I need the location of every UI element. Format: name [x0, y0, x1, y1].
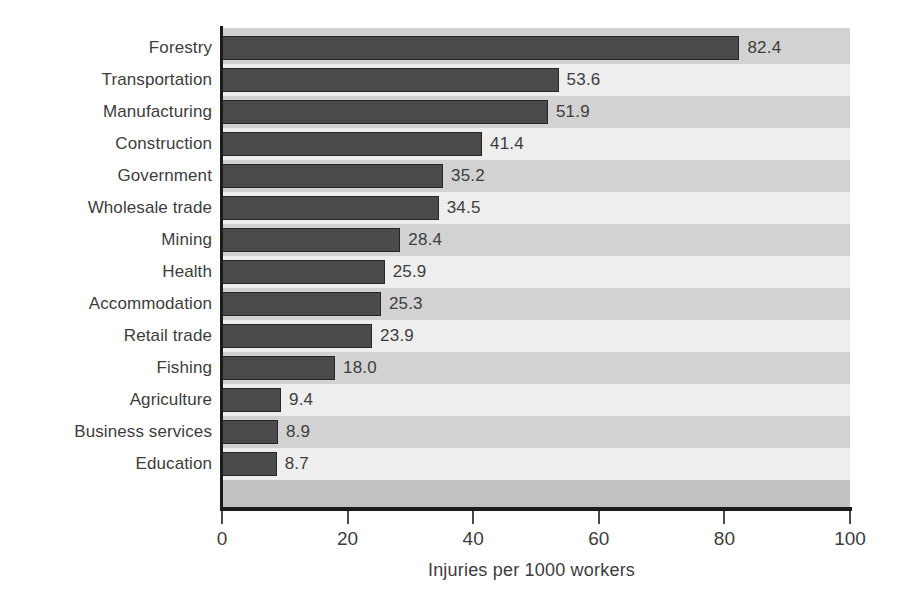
category-axis-labels: ForestryTransportationManufacturingConst… — [0, 28, 212, 508]
x-axis-line — [220, 507, 852, 511]
category-label: Wholesale trade — [2, 198, 212, 218]
x-axis-tick-label: 100 — [834, 528, 866, 550]
bar — [222, 420, 278, 444]
x-axis-tick-label: 0 — [217, 528, 228, 550]
bar — [222, 356, 335, 380]
bar — [222, 36, 739, 60]
category-label: Accommodation — [2, 294, 212, 314]
chart-background-band — [222, 480, 850, 508]
bar-value-label: 25.9 — [393, 262, 427, 282]
x-axis-tick-label: 60 — [588, 528, 609, 550]
bar — [222, 228, 400, 252]
category-label: Health — [2, 262, 212, 282]
bar-value-label: 41.4 — [490, 134, 524, 154]
bar-row: 18.0 — [222, 356, 850, 380]
bar — [222, 260, 385, 284]
category-label: Construction — [2, 134, 212, 154]
bar-value-label: 9.4 — [289, 390, 313, 410]
x-axis-tick — [723, 511, 725, 524]
category-label: Manufacturing — [2, 102, 212, 122]
bar-row: 8.7 — [222, 452, 850, 476]
bar — [222, 452, 277, 476]
x-axis-title: Injuries per 1000 workers — [0, 560, 911, 581]
bar-row: 9.4 — [222, 388, 850, 412]
bar-value-label: 23.9 — [380, 326, 414, 346]
bar-row: 25.9 — [222, 260, 850, 284]
bar — [222, 68, 559, 92]
horizontal-bar-chart: 82.453.651.941.435.234.528.425.925.323.9… — [0, 0, 911, 602]
x-axis-tick — [347, 511, 349, 524]
category-label: Education — [2, 454, 212, 474]
bar-value-label: 53.6 — [567, 70, 601, 90]
x-axis-tick — [849, 511, 851, 524]
bar-row: 53.6 — [222, 68, 850, 92]
bar-row: 34.5 — [222, 196, 850, 220]
bar-value-label: 25.3 — [389, 294, 423, 314]
bar — [222, 292, 381, 316]
category-label: Fishing — [2, 358, 212, 378]
bar-row: 23.9 — [222, 324, 850, 348]
x-axis-tick — [221, 511, 223, 524]
bar-value-label: 28.4 — [408, 230, 442, 250]
category-label: Mining — [2, 230, 212, 250]
category-label: Retail trade — [2, 326, 212, 346]
bar-value-label: 82.4 — [747, 38, 781, 58]
category-label: Forestry — [2, 38, 212, 58]
x-axis-tick-label: 40 — [463, 528, 484, 550]
bar-row: 8.9 — [222, 420, 850, 444]
bar-row: 82.4 — [222, 36, 850, 60]
bar-value-label: 34.5 — [447, 198, 481, 218]
bar-row: 51.9 — [222, 100, 850, 124]
bar — [222, 164, 443, 188]
category-label: Agriculture — [2, 390, 212, 410]
bar-row: 28.4 — [222, 228, 850, 252]
bar — [222, 132, 482, 156]
bar — [222, 100, 548, 124]
x-axis-tick — [472, 511, 474, 524]
bar — [222, 196, 439, 220]
plot-area: 82.453.651.941.435.234.528.425.925.323.9… — [222, 28, 850, 508]
y-axis-line — [220, 26, 223, 510]
bar-value-label: 8.9 — [286, 422, 310, 442]
x-axis-tick-label: 80 — [714, 528, 735, 550]
x-axis-tick — [598, 511, 600, 524]
category-label: Government — [2, 166, 212, 186]
bar-value-label: 8.7 — [285, 454, 309, 474]
bar-value-label: 35.2 — [451, 166, 485, 186]
bar-row: 35.2 — [222, 164, 850, 188]
bar — [222, 388, 281, 412]
category-label: Business services — [2, 422, 212, 442]
bar-row: 25.3 — [222, 292, 850, 316]
x-axis-title-text: Injuries per 1000 workers — [428, 560, 635, 581]
bar-value-label: 51.9 — [556, 102, 590, 122]
category-label: Transportation — [2, 70, 212, 90]
bar-value-label: 18.0 — [343, 358, 377, 378]
bar-row: 41.4 — [222, 132, 850, 156]
x-axis-tick-label: 20 — [337, 528, 358, 550]
bar — [222, 324, 372, 348]
